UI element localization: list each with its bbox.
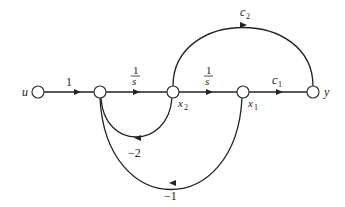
node-n1 — [94, 86, 106, 98]
gain-x2-x1-den: s — [205, 75, 209, 87]
label-x1: x — [247, 97, 253, 109]
arrow-icon — [206, 89, 213, 95]
signal-flow-graph: u y x 2 x 1 1 1 s 1 s c 1 c 2 −2 −1 — [0, 0, 345, 207]
node-u — [32, 86, 44, 98]
label-x1-sub: 1 — [254, 103, 258, 112]
node-y — [307, 86, 319, 98]
label-y: y — [323, 85, 330, 99]
arrow-icon — [134, 135, 141, 141]
gain-n1-x2-den: s — [132, 75, 136, 87]
label-x2: x — [177, 97, 183, 109]
arrow-icon — [133, 89, 140, 95]
gain-minus1: −1 — [164, 189, 177, 203]
arrow-icon — [74, 89, 81, 95]
gain-c1-sub: 1 — [278, 80, 282, 89]
edge-x2-y-c2 — [173, 28, 313, 87]
label-u: u — [22, 85, 28, 99]
gain-u-n1: 1 — [66, 75, 72, 89]
edge-x2-n1-feedback — [101, 98, 172, 137]
edge-x1-n1-feedback — [100, 98, 242, 190]
label-x2-sub: 2 — [184, 103, 188, 112]
gain-minus2: −2 — [128, 146, 141, 160]
gain-c2-sub: 2 — [246, 12, 250, 21]
arrow-icon — [169, 180, 176, 186]
arrow-icon — [276, 89, 283, 95]
